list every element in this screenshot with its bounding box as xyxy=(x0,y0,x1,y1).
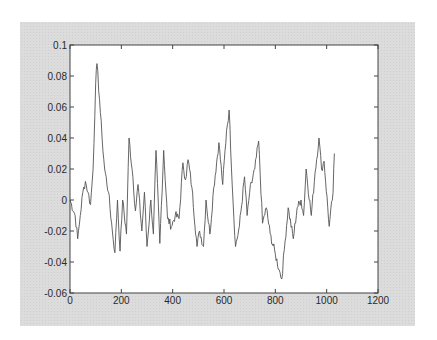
y-tick-label: 0.04 xyxy=(48,133,68,144)
x-tick-label: 200 xyxy=(113,295,130,306)
x-tick-label: 600 xyxy=(216,295,233,306)
y-tick-label: 0.1 xyxy=(53,40,67,51)
x-tick-label: 1200 xyxy=(367,295,390,306)
x-tick-label: 0 xyxy=(67,295,73,306)
line-chart: 020040060080010001200 0.10.080.060.040.0… xyxy=(0,0,437,340)
x-tick-label: 1000 xyxy=(316,295,339,306)
y-tick-label: -0.06 xyxy=(44,288,67,299)
x-tick-label: 400 xyxy=(164,295,181,306)
plot-area xyxy=(70,45,378,293)
y-tick-label: -0.04 xyxy=(44,257,67,268)
x-tick-label: 800 xyxy=(267,295,284,306)
y-tick-label: 0.08 xyxy=(48,71,68,82)
y-tick-label: 0 xyxy=(61,195,67,206)
y-tick-label: -0.02 xyxy=(44,226,67,237)
y-tick-label: 0.02 xyxy=(48,164,68,175)
y-tick-label: 0.06 xyxy=(48,102,68,113)
